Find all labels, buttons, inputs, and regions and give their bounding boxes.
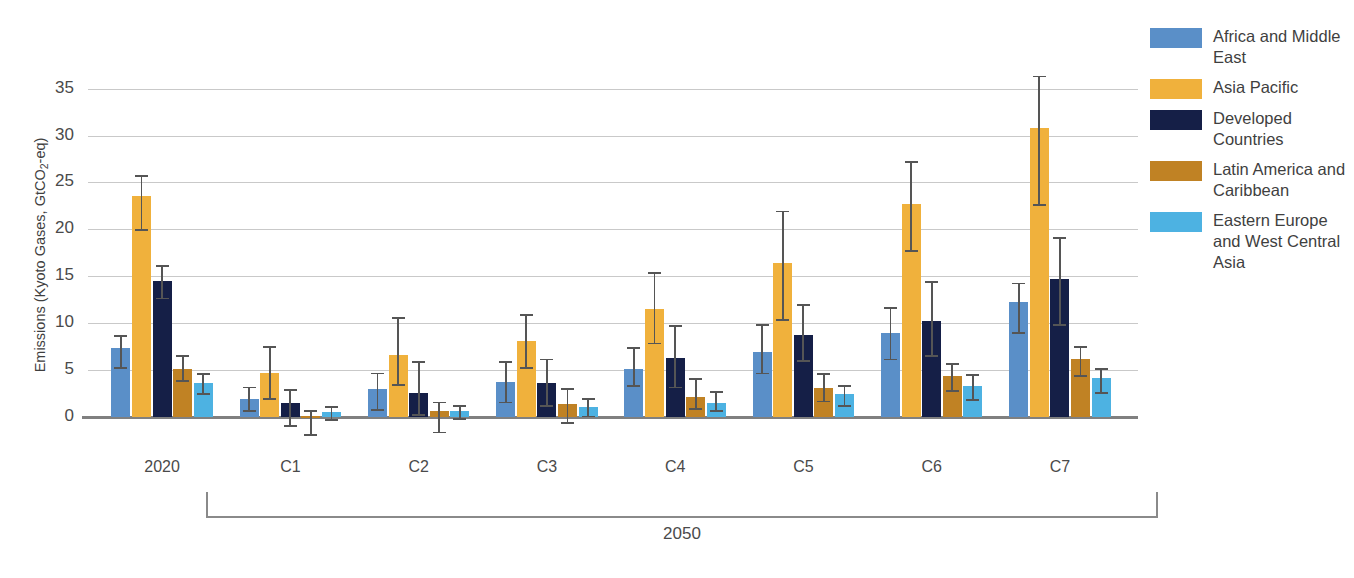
- error-bar-cap-bottom: [648, 343, 661, 345]
- bar-slot: [281, 70, 300, 440]
- error-bar-cap-bottom: [1033, 204, 1046, 206]
- x-tick-label: C7: [1009, 458, 1110, 476]
- legend-item-label: Asia Pacific: [1213, 77, 1298, 98]
- bar-slot: [194, 70, 213, 440]
- error-bar-cap-top: [176, 355, 189, 357]
- legend-item[interactable]: Asia Pacific: [1150, 77, 1350, 99]
- error-bar-cap-bottom: [1095, 392, 1108, 394]
- error-bar-cap-top: [884, 307, 897, 309]
- legend-color-swatch: [1150, 28, 1202, 48]
- error-bar-cap-top: [756, 324, 769, 326]
- bar-slot: [881, 70, 900, 440]
- error-bar-line: [1038, 76, 1040, 204]
- plot-area: 05101520253035 2020C1C2C3C4C5C6C7 Emissi…: [88, 70, 1138, 440]
- error-bar-cap-bottom: [371, 409, 384, 411]
- legend-color-swatch: [1150, 212, 1202, 232]
- bar-slot: [666, 70, 685, 440]
- bar-slot: [450, 70, 469, 440]
- bar-slot: [1030, 70, 1049, 440]
- bar-group: C7: [1009, 70, 1110, 440]
- error-bar-line: [505, 361, 507, 401]
- error-bar-cap-top: [520, 314, 533, 316]
- error-bar-line: [761, 324, 763, 373]
- error-bar-cap-top: [710, 391, 723, 393]
- error-bar-line: [459, 405, 461, 418]
- x-tick-label: C3: [496, 458, 597, 476]
- error-bar-line: [418, 361, 420, 413]
- legend-item[interactable]: Africa and Middle East: [1150, 26, 1350, 68]
- error-bar-cap-bottom: [582, 416, 595, 418]
- error-bar-line: [141, 175, 143, 229]
- x-tick-label: C2: [368, 458, 469, 476]
- bar-slot: [132, 70, 151, 440]
- x-tick-label: C4: [624, 458, 725, 476]
- legend-color-swatch: [1150, 161, 1202, 181]
- error-bar-line: [438, 402, 440, 432]
- error-bar-line: [654, 272, 656, 342]
- bar-group: C6: [881, 70, 982, 440]
- error-bar-line: [587, 398, 589, 416]
- bar-slot: [368, 70, 387, 440]
- error-bar-cap-top: [325, 406, 338, 408]
- error-bar-cap-top: [797, 304, 810, 306]
- error-bar-cap-bottom: [263, 398, 276, 400]
- error-bar-cap-bottom: [284, 425, 297, 427]
- error-bar-line: [310, 410, 312, 434]
- legend-item[interactable]: Developed Countries: [1150, 108, 1350, 150]
- bracket-span: [206, 516, 1158, 518]
- error-bar-cap-bottom: [499, 402, 512, 404]
- bar-slot: [753, 70, 772, 440]
- error-bar-cap-top: [648, 272, 661, 274]
- error-bar-cap-top: [371, 373, 384, 375]
- error-bar-cap-bottom: [925, 355, 938, 357]
- bar-slot: [707, 70, 726, 440]
- x-tick-label: 2020: [111, 458, 212, 476]
- bar-slot: [794, 70, 813, 440]
- bar-slot: [240, 70, 259, 440]
- bar-slot: [173, 70, 192, 440]
- error-bar-line: [289, 389, 291, 425]
- error-bar-cap-top: [966, 374, 979, 376]
- error-bar-cap-bottom: [243, 410, 256, 412]
- bar-slot: [963, 70, 982, 440]
- error-bar-line: [1100, 368, 1102, 392]
- error-bar-line: [633, 347, 635, 384]
- error-bar-line: [972, 374, 974, 398]
- error-bar-cap-bottom: [776, 319, 789, 321]
- error-bar-cap-bottom: [884, 359, 897, 361]
- error-bar-line: [674, 325, 676, 387]
- error-bar-cap-top: [689, 378, 702, 380]
- error-bar-cap-bottom: [135, 229, 148, 231]
- legend-item-label: Eastern Europe and West Central Asia: [1213, 210, 1350, 273]
- error-bar-cap-bottom: [946, 390, 959, 392]
- error-bar-cap-top: [243, 387, 256, 389]
- bar-slot: [389, 70, 408, 440]
- error-bar-cap-bottom: [392, 384, 405, 386]
- legend-item[interactable]: Eastern Europe and West Central Asia: [1150, 210, 1350, 273]
- bar[interactable]: [153, 281, 172, 417]
- error-bar-cap-top: [412, 361, 425, 363]
- legend-color-swatch: [1150, 79, 1202, 99]
- error-bar-cap-top: [1074, 346, 1087, 348]
- error-bar-cap-bottom: [540, 405, 553, 407]
- error-bar-cap-bottom: [325, 419, 338, 421]
- bar-group: C3: [496, 70, 597, 440]
- chart-legend: Africa and Middle EastAsia PacificDevelo…: [1150, 26, 1350, 282]
- bar-group: C1: [240, 70, 341, 440]
- error-bar-line: [182, 355, 184, 380]
- error-bar-cap-top: [114, 335, 127, 337]
- bar-slot: [902, 70, 921, 440]
- error-bar-cap-top: [1012, 283, 1025, 285]
- error-bar-line: [525, 314, 527, 366]
- bar-slot: [322, 70, 341, 440]
- bracket-left-tick: [206, 492, 208, 518]
- error-bar-line: [890, 307, 892, 359]
- legend-item[interactable]: Latin America and Caribbean: [1150, 159, 1350, 201]
- error-bar-cap-top: [453, 405, 466, 407]
- error-bar-cap-bottom: [156, 298, 169, 300]
- error-bar-cap-top: [817, 373, 830, 375]
- error-bar-cap-bottom: [1053, 324, 1066, 326]
- error-bar-cap-top: [197, 373, 210, 375]
- chart-figure: 05101520253035 2020C1C2C3C4C5C6C7 Emissi…: [0, 0, 1354, 578]
- error-bar-line: [1018, 283, 1020, 333]
